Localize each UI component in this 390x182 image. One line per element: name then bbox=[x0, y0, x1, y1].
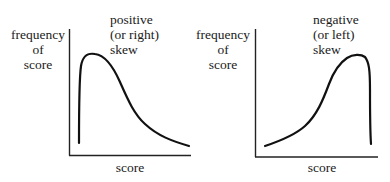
y-axis-label-line: score bbox=[195, 57, 251, 72]
negative-skew-curve bbox=[265, 55, 371, 146]
x-axis-label: score bbox=[110, 160, 150, 175]
chart-title-line: positive bbox=[110, 12, 159, 27]
chart-title-line: skew bbox=[313, 42, 359, 57]
chart-title-line: skew bbox=[110, 42, 159, 57]
y-axis-label-line: score bbox=[10, 57, 66, 72]
y-axis-label-line: of bbox=[10, 42, 66, 57]
chart-title-line: negative bbox=[313, 12, 359, 27]
x-axis-label: score bbox=[302, 160, 342, 175]
positive-skew-curve bbox=[79, 54, 189, 146]
negative-skew-diagram: frequency of score negative (or left) sk… bbox=[195, 0, 390, 182]
y-axis-label-line: frequency bbox=[10, 27, 66, 42]
chart-title-line: (or right) bbox=[110, 27, 159, 42]
chart-title: positive (or right) skew bbox=[110, 12, 159, 57]
y-axis-label-line: of bbox=[195, 42, 251, 57]
y-axis-label: frequency of score bbox=[10, 27, 66, 72]
y-axis-label: frequency of score bbox=[195, 27, 251, 72]
chart-title: negative (or left) skew bbox=[313, 12, 359, 57]
positive-skew-diagram: frequency of score positive (or right) s… bbox=[0, 0, 195, 182]
y-axis-label-line: frequency bbox=[195, 27, 251, 42]
chart-title-line: (or left) bbox=[313, 27, 359, 42]
